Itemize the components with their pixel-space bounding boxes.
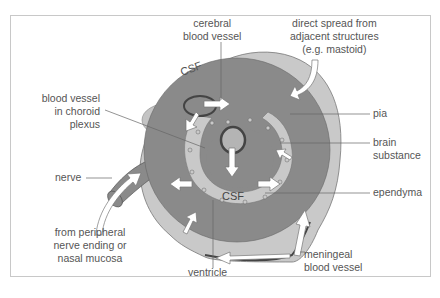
label-brain-substance: brain substance — [373, 136, 421, 162]
label-direct-spread: direct spread from adjacent structures (… — [290, 17, 379, 56]
label-choroid-plexus: blood vessel in choroid plexus — [38, 92, 100, 131]
label-pia: pia — [373, 107, 387, 120]
label-peripheral: from peripheral nerve ending or nasal mu… — [50, 226, 130, 265]
label-meningeal-vessel: meningeal blood vessel — [304, 248, 362, 274]
label-cerebral-vessel: cerebral blood vessel — [183, 17, 241, 43]
label-ventricle: ventricle — [188, 266, 227, 279]
csf-inner-label: CSF — [222, 190, 244, 202]
label-ependyma: ependyma — [373, 186, 422, 199]
label-nerve: nerve — [55, 171, 81, 184]
